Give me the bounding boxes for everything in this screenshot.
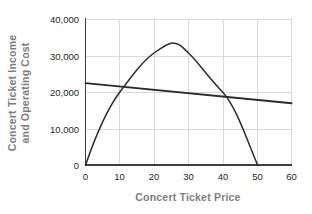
- y-tick-label-30000: 30,000: [50, 51, 79, 62]
- x-tick-label-40: 40: [218, 171, 229, 182]
- x-axis-title: Concert Ticket Price: [135, 191, 240, 203]
- x-tick-label-50: 50: [252, 171, 263, 182]
- chart-container: 40,000 30,000 20,000 10,000 0 0 10 20 30…: [0, 0, 312, 214]
- y-tick-label-0: 0: [74, 160, 79, 171]
- x-tick-label-30: 30: [183, 171, 194, 182]
- y-tick-label-40000: 40,000: [50, 14, 79, 25]
- concert-ticket-chart: 40,000 30,000 20,000 10,000 0 0 10 20 30…: [0, 0, 312, 214]
- y-axis-title-line1: Concert Ticket Income: [6, 35, 18, 152]
- y-axis-title-line2: and Operating Cost: [19, 42, 31, 143]
- x-tick-label-60: 60: [286, 171, 297, 182]
- y-tick-label-10000: 10,000: [50, 124, 79, 135]
- y-tick-label-20000: 20,000: [50, 87, 79, 98]
- x-tick-label-10: 10: [114, 171, 125, 182]
- x-tick-label-20: 20: [149, 171, 160, 182]
- x-tick-label-0: 0: [83, 171, 88, 182]
- y-axis-title: Concert Ticket Income and Operating Cost: [6, 35, 31, 152]
